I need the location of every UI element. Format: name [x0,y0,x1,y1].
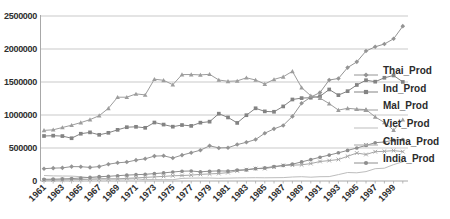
svg-text:1977: 1977 [174,182,195,203]
svg-text:1997: 1997 [358,182,379,203]
legend-item-thai: Thai_Prod [353,62,439,80]
svg-text:1993: 1993 [321,182,342,203]
legend-item-china: China_Prod [353,132,439,150]
svg-text:1989: 1989 [284,182,305,203]
svg-text:1987: 1987 [266,182,287,203]
viet-series-marker-icon [353,119,379,129]
svg-text:1995: 1995 [339,182,360,203]
legend-item-ind: Ind_Prod [353,80,439,98]
svg-text:1999: 1999 [376,182,397,203]
svg-text:1965: 1965 [63,182,84,203]
svg-text:1961: 1961 [27,182,48,203]
svg-text:1973: 1973 [137,182,158,203]
svg-text:1991: 1991 [303,182,324,203]
svg-text:1983: 1983 [229,182,250,203]
svg-text:1979: 1979 [192,182,213,203]
svg-text:1981: 1981 [211,182,232,203]
thai-series-marker-icon [353,66,379,76]
legend-label: Mal_Prod [383,100,428,111]
legend-item-mal: Mal_Prod [353,97,439,115]
legend-label: Viet_Prod [383,118,430,129]
svg-text:1967: 1967 [82,182,103,203]
legend-item-viet: Viet_Prod [353,115,439,133]
legend-label: Ind_Prod [383,83,426,94]
china-series-marker-icon [353,136,379,146]
mal-series-marker-icon [353,101,379,111]
ind-series-marker-icon [353,83,379,93]
legend-label: Thai_Prod [383,65,432,76]
svg-text:1975: 1975 [155,182,176,203]
legend: Thai_Prod Ind_Prod Mal_Prod Viet_Prod Ch… [353,62,439,168]
svg-text:1969: 1969 [100,182,121,203]
svg-text:1963: 1963 [45,182,66,203]
svg-text:1985: 1985 [247,182,268,203]
line-chart: 2500000 2000000 1500000 1000000 500000 0… [0,0,450,219]
legend-item-india: India_Prod [353,150,439,168]
legend-label: India_Prod [383,153,435,164]
svg-text:1971: 1971 [119,182,140,203]
india-series-marker-icon [353,154,379,164]
legend-label: China_Prod [383,136,439,147]
